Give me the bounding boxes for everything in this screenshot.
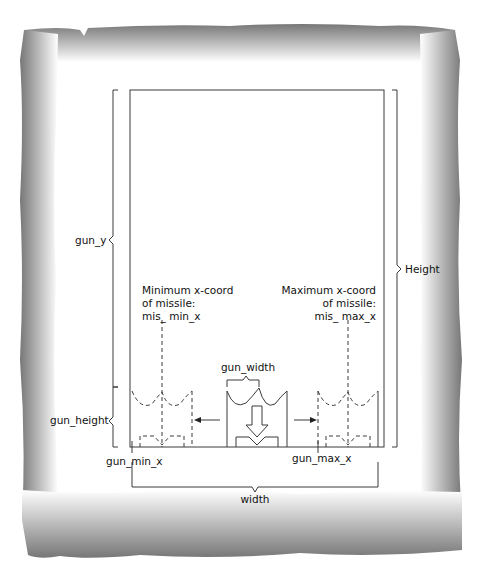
- max-x-label-line2: of missile:: [323, 297, 376, 309]
- gun-width-label: gun_width: [221, 361, 275, 374]
- gun-y-label: gun_y: [75, 234, 106, 247]
- max-x-label-line3: mis_ max_x: [314, 310, 376, 323]
- gun-min-x-label: gun_min_x: [106, 455, 163, 468]
- gun-max-x-label: gun_max_x: [292, 452, 352, 465]
- max-x-label-line1: Maximum x-coord: [282, 284, 377, 296]
- width-label: width: [241, 493, 270, 505]
- min-x-label-line3: mis_ min_x: [142, 310, 200, 323]
- diagram-canvas: gun_y Height Minimum x-coord of missile:…: [0, 0, 480, 573]
- height-label: Height: [405, 263, 440, 275]
- gun-height-label: gun_height: [50, 414, 109, 427]
- min-x-label-line2: of missile:: [142, 297, 195, 309]
- torn-paper-border: [20, 24, 462, 558]
- min-x-label-line1: Minimum x-coord: [142, 284, 233, 296]
